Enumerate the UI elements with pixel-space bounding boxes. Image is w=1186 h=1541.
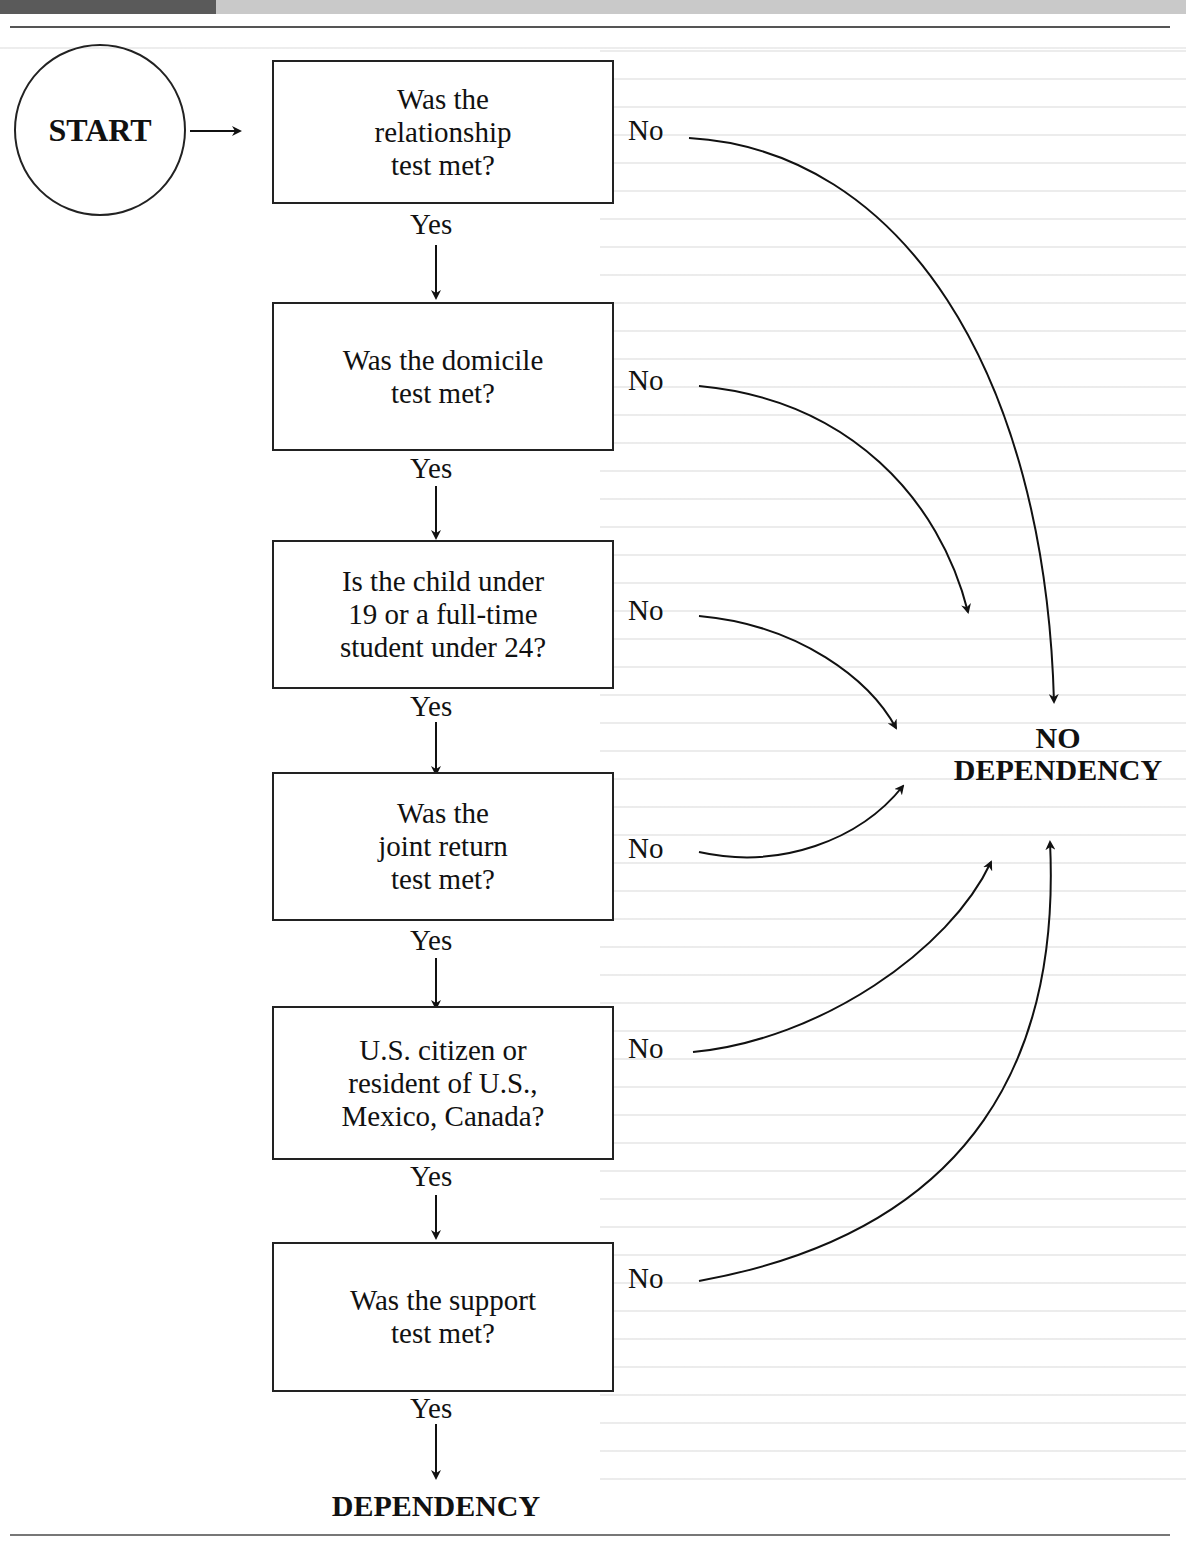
decision-domicile-test: Was the domicile test met? — [272, 302, 614, 451]
decision-question: Was the joint return test met? — [378, 797, 508, 896]
no-label: No — [628, 832, 663, 865]
no-label: No — [628, 594, 663, 627]
outcome-no-dependency: NO DEPENDENCY — [938, 722, 1178, 786]
outcome-dependency: DEPENDENCY — [300, 1490, 572, 1522]
yes-label: Yes — [410, 690, 452, 723]
decision-question: Is the child under 19 or a full-time stu… — [340, 565, 546, 664]
no-label: No — [628, 1032, 663, 1065]
decision-joint-return-test: Was the joint return test met? — [272, 772, 614, 921]
bottom-rule — [10, 1534, 1170, 1536]
start-node: START — [14, 44, 186, 216]
decision-question: Was the support test met? — [350, 1284, 536, 1350]
outcome-line: DEPENDENCY — [938, 754, 1178, 786]
outcome-line: NO — [938, 722, 1178, 754]
decision-relationship-test: Was the relationship test met? — [272, 60, 614, 204]
decision-age-student-test: Is the child under 19 or a full-time stu… — [272, 540, 614, 689]
decision-question: Was the relationship test met? — [375, 83, 512, 182]
decision-support-test: Was the support test met? — [272, 1242, 614, 1392]
yes-label: Yes — [410, 1392, 452, 1425]
decision-citizenship-test: U.S. citizen or resident of U.S., Mexico… — [272, 1006, 614, 1160]
decision-question: U.S. citizen or resident of U.S., Mexico… — [342, 1034, 545, 1133]
yes-label: Yes — [410, 924, 452, 957]
decision-question: Was the domicile test met? — [343, 344, 544, 410]
yes-label: Yes — [410, 208, 452, 241]
yes-label: Yes — [410, 1160, 452, 1193]
no-label: No — [628, 364, 663, 397]
no-label: No — [628, 114, 663, 147]
outcome-label: DEPENDENCY — [332, 1489, 540, 1522]
no-label: No — [628, 1262, 663, 1295]
start-label: START — [48, 112, 151, 149]
yes-label: Yes — [410, 452, 452, 485]
